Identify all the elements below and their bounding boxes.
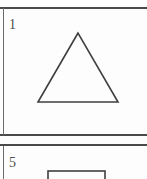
shape-panel-1: 1 [0, 9, 147, 134]
triangle-shape [0, 9, 147, 134]
panel-separator-rule-upper [0, 134, 147, 136]
rectangle-outline [48, 171, 105, 179]
triangle-outline [38, 33, 118, 102]
worksheet-page: 1 5 [0, 0, 147, 179]
shape-panel-5: 5 [0, 146, 147, 179]
rectangle-shape [0, 146, 147, 179]
